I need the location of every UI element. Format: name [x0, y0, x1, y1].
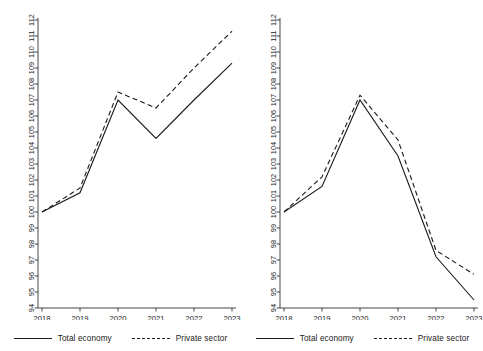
y-axis-tick-label: 94	[269, 304, 278, 312]
x-axis-tick-label: 2018	[34, 314, 51, 321]
y-axis-tick-label: 95	[27, 288, 36, 296]
y-axis-tick-label: 110	[269, 46, 278, 58]
y-axis-tick-label: 100	[27, 206, 36, 218]
y-axis-tick-label: 95	[269, 288, 278, 296]
y-axis-tick-label: 112	[27, 14, 36, 26]
series-line-private-sector	[284, 95, 474, 274]
legend-swatch-solid-icon	[256, 338, 294, 340]
y-axis-tick-label: 104	[27, 142, 36, 154]
y-axis-tick-label: 99	[27, 224, 36, 232]
legend-label-private-sector: Private sector	[176, 334, 227, 343]
y-axis-tick-label: 105	[269, 126, 278, 138]
legend-label-private-sector: Private sector	[418, 334, 469, 343]
series-line-total-economy	[42, 63, 232, 212]
y-axis-tick-label: 110	[27, 46, 36, 58]
plot-area-left: 9495969798991001011021031041051061071081…	[0, 0, 241, 320]
y-axis-tick-label: 108	[27, 78, 36, 90]
y-axis-tick-label: 102	[27, 174, 36, 186]
x-axis-tick-label: 2023	[224, 314, 241, 321]
y-axis-tick-label: 109	[269, 62, 278, 74]
y-axis-tick-label: 98	[27, 240, 36, 248]
x-axis-tick-label: 2021	[148, 314, 165, 321]
series-line-total-economy	[284, 100, 474, 300]
y-axis-tick-label: 94	[27, 304, 36, 312]
y-axis-tick-label: 97	[27, 256, 36, 264]
x-axis-tick-label: 2019	[72, 314, 89, 321]
legend-right: Total economy Private sector	[242, 326, 483, 351]
y-axis-tick-label: 99	[269, 224, 278, 232]
y-axis-tick-label: 97	[269, 256, 278, 264]
y-axis-tick-label: 96	[27, 272, 36, 280]
x-axis-tick-label: 2020	[110, 314, 127, 321]
x-axis-tick-label: 2018	[276, 314, 293, 321]
x-axis-tick-label: 2022	[186, 314, 203, 321]
legend-label-total-economy: Total economy	[300, 334, 354, 343]
legend-entry-total-economy-left: Total economy	[14, 334, 112, 343]
x-axis-tick-label: 2019	[314, 314, 331, 321]
y-axis-tick-label: 106	[269, 110, 278, 122]
y-axis-tick-label: 102	[269, 174, 278, 186]
y-axis-tick-label: 103	[27, 158, 36, 170]
legend-entry-total-economy-right: Total economy	[256, 334, 354, 343]
chart-panel-right: 9495969798991001011021031041051061071081…	[242, 0, 483, 351]
y-axis-tick-label: 98	[269, 240, 278, 248]
y-axis-tick-label: 103	[269, 158, 278, 170]
two-panel-line-chart-figure: 9495969798991001011021031041051061071081…	[0, 0, 483, 351]
plot-area-right: 9495969798991001011021031041051061071081…	[242, 0, 483, 320]
y-axis-tick-label: 96	[269, 272, 278, 280]
y-axis-tick-label: 106	[27, 110, 36, 122]
y-axis-tick-label: 105	[27, 126, 36, 138]
legend-entry-private-sector-left: Private sector	[132, 334, 227, 343]
y-axis-tick-label: 107	[269, 94, 278, 106]
y-axis-tick-label: 112	[269, 14, 278, 26]
y-axis-tick-label: 101	[27, 190, 36, 202]
y-axis-tick-label: 108	[269, 78, 278, 90]
y-axis-tick-label: 109	[27, 62, 36, 74]
y-axis-tick-label: 104	[269, 142, 278, 154]
legend-swatch-solid-icon	[14, 338, 52, 340]
x-axis-tick-label: 2022	[428, 314, 445, 321]
y-axis-tick-label: 101	[269, 190, 278, 202]
legend-entry-private-sector-right: Private sector	[374, 334, 469, 343]
legend-label-total-economy: Total economy	[58, 334, 112, 343]
legend-left: Total economy Private sector	[0, 326, 241, 351]
plot-svg-left: 9495969798991001011021031041051061071081…	[0, 0, 241, 320]
y-axis-tick-label: 100	[269, 206, 278, 218]
legend-swatch-dashed-icon	[132, 338, 170, 340]
y-axis-tick-label: 107	[27, 94, 36, 106]
x-axis-tick-label: 2021	[390, 314, 407, 321]
y-axis-tick-label: 111	[269, 30, 278, 41]
y-axis-tick-label: 111	[27, 30, 36, 41]
x-axis-tick-label: 2020	[352, 314, 369, 321]
x-axis-tick-label: 2023	[466, 314, 483, 321]
legend-swatch-dashed-icon	[374, 338, 412, 340]
plot-svg-right: 9495969798991001011021031041051061071081…	[242, 0, 483, 320]
chart-panel-left: 9495969798991001011021031041051061071081…	[0, 0, 241, 351]
series-line-private-sector	[42, 31, 232, 212]
